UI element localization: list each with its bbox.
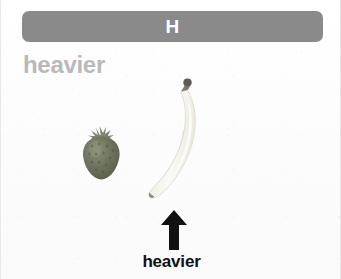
- worksheet-canvas: H heavier: [0, 0, 341, 279]
- banana-stem: [181, 81, 190, 92]
- header-bar-title: H: [165, 17, 179, 36]
- banana-icon: [142, 78, 208, 203]
- banana-item: [142, 78, 208, 203]
- strawberry-highlight: [89, 141, 102, 158]
- banana-body: [149, 90, 195, 198]
- banana-inner-shade: [150, 129, 185, 193]
- arrow-up-shape: [161, 210, 187, 250]
- strawberry-calyx: [88, 126, 114, 142]
- strawberry-body: [83, 137, 120, 180]
- strawberry-seeds: [88, 142, 114, 173]
- strawberry-item: [79, 124, 125, 182]
- banana-tip: [149, 193, 155, 199]
- banana-stem-cap: [183, 79, 191, 87]
- banana-highlight: [169, 96, 193, 183]
- bottom-caption-heavier: heavier: [1, 253, 341, 270]
- top-caption-heavier: heavier: [23, 53, 105, 77]
- arrow-up-icon: [154, 209, 194, 251]
- header-bar: H: [22, 11, 323, 42]
- arrow-up-indicator: [154, 209, 194, 251]
- strawberry-icon: [79, 124, 125, 182]
